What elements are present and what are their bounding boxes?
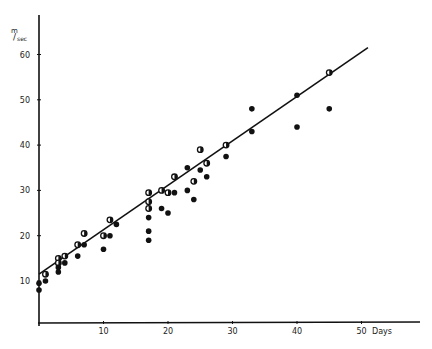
data-point xyxy=(36,280,42,286)
x-tick-label: 40 xyxy=(292,327,302,336)
data-point xyxy=(107,233,113,239)
y-tick-label: 60 xyxy=(20,51,30,60)
data-point xyxy=(294,92,300,98)
data-point xyxy=(43,278,49,284)
data-point xyxy=(223,154,229,160)
x-tick-label: 30 xyxy=(227,327,237,336)
data-point xyxy=(36,287,42,293)
x-tick-label: 10 xyxy=(98,327,108,336)
trend-line xyxy=(39,48,368,274)
x-tick-label: 50 xyxy=(356,327,366,336)
y-tick-label: 20 xyxy=(20,232,30,241)
data-point xyxy=(56,269,62,275)
data-point xyxy=(249,106,255,112)
data-point xyxy=(191,197,197,203)
y-tick-label: 10 xyxy=(20,277,30,286)
x-axis-label: Days xyxy=(372,327,392,336)
data-point xyxy=(146,237,152,243)
data-point xyxy=(294,124,300,130)
y-label-den: sec xyxy=(17,35,27,42)
data-point xyxy=(75,253,81,259)
data-point xyxy=(165,210,171,216)
axes xyxy=(38,15,420,326)
x-axis xyxy=(38,322,420,323)
data-point xyxy=(159,206,165,212)
y-ticks: 102030405060 xyxy=(20,51,41,287)
x-tick-label: 20 xyxy=(163,327,173,336)
data-point xyxy=(81,242,87,248)
data-point xyxy=(249,129,255,135)
data-point xyxy=(326,106,332,112)
data-point xyxy=(185,165,191,171)
data-point xyxy=(172,190,178,196)
data-point xyxy=(197,167,203,173)
y-tick-label: 40 xyxy=(20,141,30,150)
data-point xyxy=(114,222,120,228)
data-point xyxy=(146,215,152,221)
data-point xyxy=(101,246,107,252)
data-point xyxy=(62,260,68,266)
y-tick-label: 30 xyxy=(20,186,30,195)
y-tick-label: 50 xyxy=(20,96,30,105)
data-point xyxy=(146,228,152,234)
data-point xyxy=(204,174,210,180)
data-point xyxy=(185,188,191,194)
scatter-chart: 102030405060 1020304050 m / sec Days xyxy=(0,0,432,349)
y-axis-label: m / sec xyxy=(11,27,27,42)
